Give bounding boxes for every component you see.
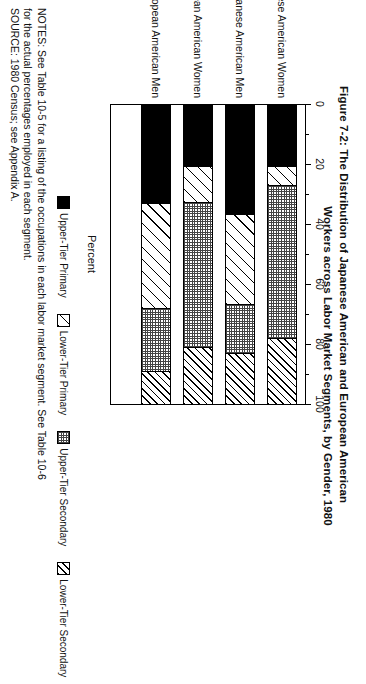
notes-line-3: SOURCE: 1980 Census; see Appendix A. [8,8,22,676]
bar-segment [183,203,213,349]
legend-label: Upper-Tier Secondary [58,448,69,546]
figure-title-line-1: Figure 7-2: The Distribution of Japanese… [336,86,352,646]
legend-label: Lower-Tier Primary [58,331,69,416]
axis-minor-tick [306,134,309,135]
bar-category-label: Japanese American Women [276,0,288,98]
stacked-bar: European American Women [183,104,213,404]
legend-item: Lower-Tier Primary [57,314,70,416]
axis-tick [306,284,311,285]
bar-segment [225,354,255,405]
bar-segment [267,105,297,167]
axis-minor-tick [306,374,309,375]
bar-segment [183,105,213,167]
axis-tick-label: 100 [314,395,326,413]
axis-minor-tick [306,194,309,195]
notes-line-1: NOTES: See Table 10-5 for a listing of t… [35,8,49,676]
bar-segment [267,186,297,339]
bar-segment [141,204,171,309]
axis-tick-label: 60 [314,278,326,290]
axis-tick [306,164,311,165]
legend-swatch-wide-diagonal [57,314,70,327]
figure-7-2: Figure 7-2: The Distribution of Japanese… [0,0,366,684]
legend: Upper-Tier PrimaryLower-Tier PrimaryUppe… [57,196,70,677]
bar-segment [267,167,297,187]
axis-tick [306,344,311,345]
axis-tick [306,104,311,105]
legend-item: Upper-Tier Primary [57,196,70,298]
bar-segment [141,372,171,405]
bar-category-label: Japanese American Men [234,0,246,98]
legend-label: Upper-Tier Primary [58,213,69,298]
legend-label: Lower-Tier Secondary [58,579,69,677]
bar-segment [267,339,297,405]
axis-minor-tick [306,314,309,315]
stacked-bar: European American Men [141,104,171,404]
bar-segment [141,105,171,204]
stacked-bar: Japanese American Women [267,104,297,404]
bar-category-label: European American Men [150,0,162,98]
bar-segment [183,348,213,405]
stacked-bar: Japanese American Men [225,104,255,404]
legend-item: Lower-Tier Secondary [57,562,70,677]
axis-bottom-line [110,104,111,405]
axis-tick-label: 40 [314,218,326,230]
legend-swatch-narrow-diagonal [57,562,70,575]
axis-tick [306,404,311,405]
legend-swatch-solid-black [57,196,70,209]
axis-tick-label: 0 [314,101,326,107]
bar-segment [225,215,255,305]
notes-line-2: for the actual percentages employed in e… [21,8,35,676]
legend-item: Upper-Tier Secondary [57,431,70,546]
axis-tick-label: 20 [314,158,326,170]
rotated-figure-canvas: Figure 7-2: The Distribution of Japanese… [0,0,366,684]
axis-minor-tick [306,254,309,255]
notes-block: NOTES: See Table 10-5 for a listing of t… [8,8,49,676]
axis-title-percent: Percent [86,104,98,404]
plot-area: 020406080100 Japanese American WomenJapa… [110,104,306,404]
bar-segment [183,167,213,203]
bar-segment [225,305,255,355]
axis-tick [306,224,311,225]
bar-segment [225,105,255,215]
bar-segment [141,309,171,372]
bar-category-label: European American Women [192,0,204,98]
axis-tick-label: 80 [314,338,326,350]
legend-swatch-dotted-gray [57,431,70,444]
